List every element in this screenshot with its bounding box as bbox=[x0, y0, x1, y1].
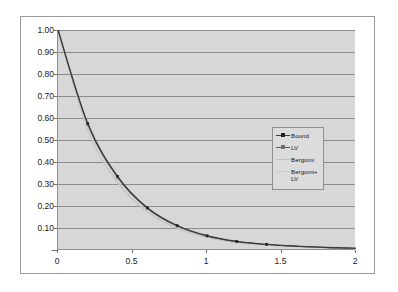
y-axis-tick-label: 0.20 bbox=[37, 202, 54, 211]
y-axis-tick-mark bbox=[54, 52, 57, 53]
x-axis-tick-mark bbox=[132, 250, 133, 253]
y-axis-tick-label: 0.90 bbox=[37, 48, 54, 57]
legend-swatch-icon bbox=[275, 131, 291, 140]
data-point-marker bbox=[206, 234, 209, 237]
x-axis-tick-mark bbox=[206, 250, 207, 253]
legend-swatch-icon bbox=[275, 167, 291, 176]
y-axis-tick-label: 0.50 bbox=[37, 136, 54, 145]
x-axis-tick-mark bbox=[281, 250, 282, 253]
x-axis-tick-mark bbox=[355, 250, 356, 253]
legend-label: Bound bbox=[291, 131, 309, 139]
y-axis-tick-label: 0.10 bbox=[37, 224, 54, 233]
chart-frame: 1.000.900.800.700.600.500.400.300.200.10… bbox=[20, 16, 375, 274]
y-axis-tick-mark bbox=[54, 96, 57, 97]
data-point-marker bbox=[176, 224, 179, 227]
y-axis-tick-mark bbox=[54, 118, 57, 119]
y-axis-tick-mark bbox=[54, 206, 57, 207]
x-axis-tick-label: 2 bbox=[353, 256, 358, 266]
legend-item[interactable]: Bergomi+LV bbox=[275, 167, 321, 182]
y-axis-labels: 1.000.900.800.700.600.500.400.300.200.10… bbox=[23, 30, 54, 250]
chart-legend: BoundLVBergomiBergomi+LV bbox=[272, 127, 324, 190]
data-point-marker bbox=[58, 30, 59, 31]
y-axis-tick-mark bbox=[54, 74, 57, 75]
x-axis-tick-label: 1.5 bbox=[275, 256, 287, 266]
y-axis-tick-label: 0.30 bbox=[37, 180, 54, 189]
data-point-marker bbox=[236, 240, 239, 243]
x-axis-labels: 00.511.52 bbox=[57, 250, 355, 270]
y-axis-tick-label: 0.70 bbox=[37, 92, 54, 101]
y-axis-tick-label: 0.40 bbox=[37, 158, 54, 167]
data-point-marker bbox=[146, 206, 149, 209]
y-axis-tick-label: 0.80 bbox=[37, 70, 54, 79]
y-axis-tick-mark bbox=[54, 228, 57, 229]
x-axis-tick-mark bbox=[57, 250, 58, 253]
y-axis-tick-mark bbox=[54, 30, 57, 31]
data-point-marker bbox=[87, 122, 90, 125]
y-axis-tick-mark bbox=[54, 184, 57, 185]
x-axis-tick-label: 0.5 bbox=[126, 256, 138, 266]
legend-label: Bergomi+LV bbox=[291, 167, 321, 182]
legend-label: Bergomi bbox=[291, 155, 314, 163]
legend-item[interactable]: Bound bbox=[275, 131, 321, 140]
legend-label: LV bbox=[291, 143, 298, 151]
legend-swatch-icon bbox=[275, 155, 291, 164]
plot-wrap: 1.000.900.800.700.600.500.400.300.200.10… bbox=[57, 30, 355, 250]
legend-item[interactable]: LV bbox=[275, 143, 321, 152]
data-point-marker bbox=[116, 175, 119, 178]
y-axis-tick-mark bbox=[54, 140, 57, 141]
data-point-marker bbox=[265, 243, 268, 246]
legend-item[interactable]: Bergomi bbox=[275, 155, 321, 164]
legend-swatch-icon bbox=[275, 143, 291, 152]
y-axis-tick-label: 1.00 bbox=[37, 26, 54, 35]
y-axis-tick-mark bbox=[54, 162, 57, 163]
x-axis-tick-label: 1 bbox=[204, 256, 209, 266]
x-axis-tick-label: 0 bbox=[55, 256, 60, 266]
y-axis-tick-label: 0.60 bbox=[37, 114, 54, 123]
